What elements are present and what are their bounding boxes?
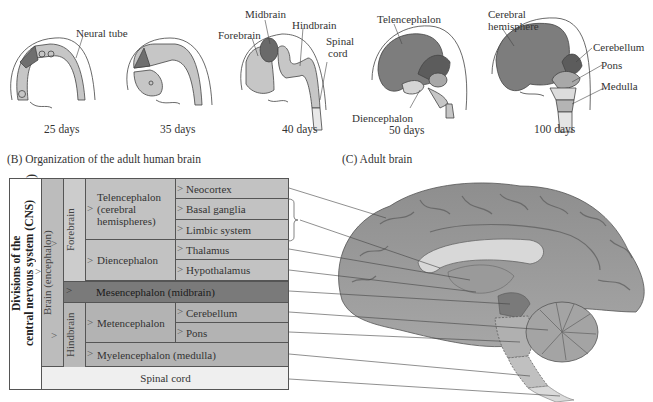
spinal-cord-region [528, 386, 574, 402]
cerebral-cortex [339, 183, 645, 347]
adult-brain-illustration [0, 0, 653, 402]
cerebellum-region [526, 302, 598, 362]
medulla-region [508, 356, 548, 388]
